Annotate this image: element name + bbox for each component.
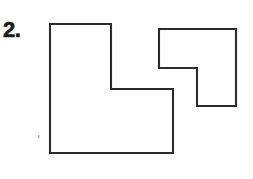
worksheet-figure-container: 2. — [0, 0, 253, 179]
scan-speck-artifact — [38, 135, 40, 138]
figure-canvas — [0, 0, 253, 179]
left-l-shape — [50, 24, 173, 153]
